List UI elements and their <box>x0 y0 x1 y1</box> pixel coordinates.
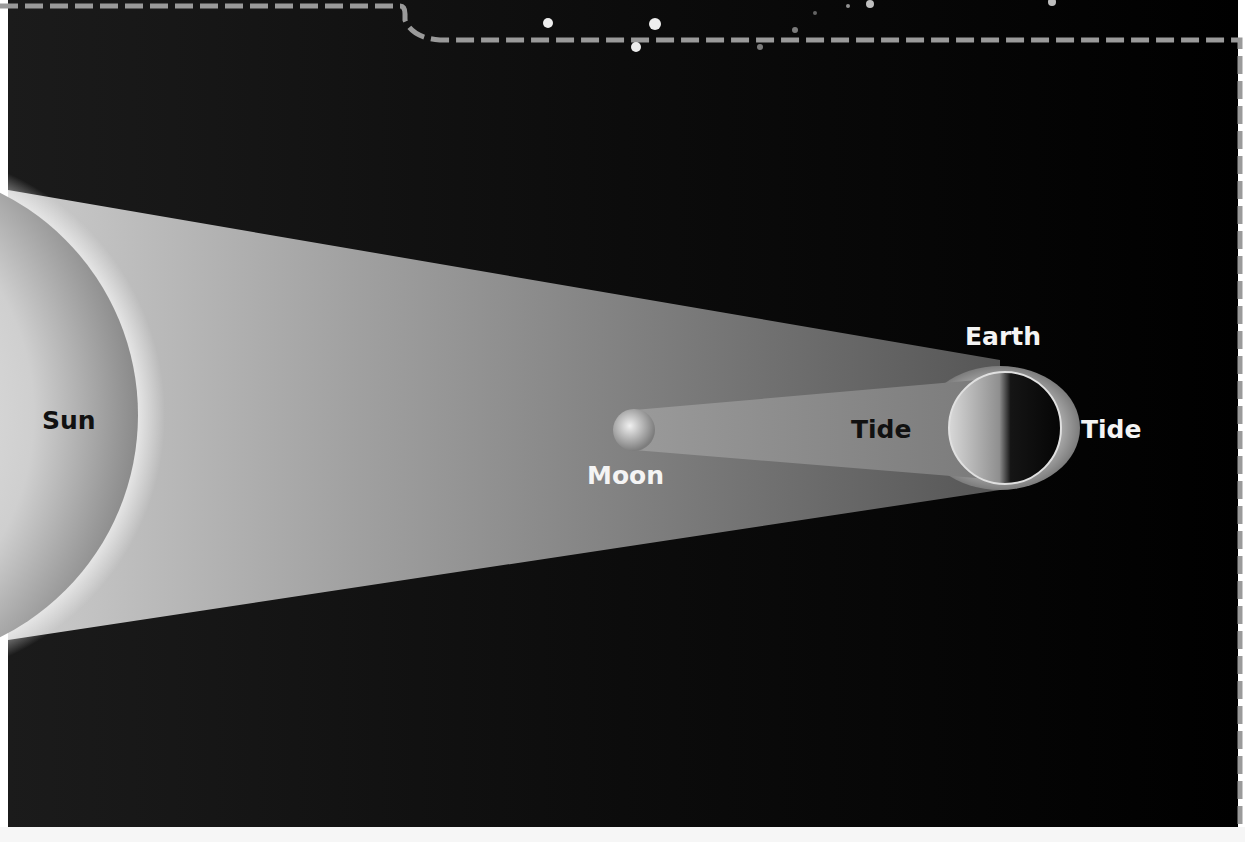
tide-far-label: Tide <box>1081 415 1141 444</box>
moon-icon <box>613 409 655 451</box>
page-margin <box>0 827 1245 842</box>
diagram-canvas <box>0 0 1245 842</box>
starfield <box>543 0 1056 52</box>
moon-label: Moon <box>587 461 664 490</box>
earth-label: Earth <box>965 322 1041 351</box>
earth-icon <box>949 372 1061 484</box>
sun-label: Sun <box>42 406 96 435</box>
tide-near-label: Tide <box>851 415 911 444</box>
